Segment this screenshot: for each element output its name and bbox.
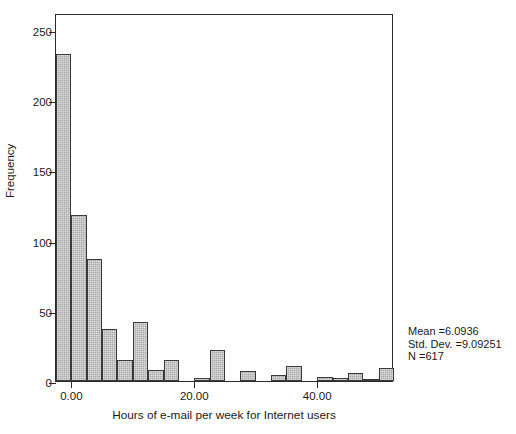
histogram-bar [71, 215, 86, 381]
y-axis-label: Frequency [4, 144, 16, 198]
y-tick-label: 250 [33, 26, 52, 38]
x-tick-mark [194, 381, 195, 388]
stat-std-dev: Std. Dev. =9.09251 [408, 338, 502, 351]
bars-layer [56, 15, 392, 381]
histogram-bar [333, 378, 348, 381]
histogram-bar [317, 377, 332, 381]
histogram-bar [164, 360, 179, 381]
x-tick-label: 20.00 [180, 390, 209, 402]
y-tick-label: 50 [39, 307, 52, 319]
histogram-bar [271, 375, 286, 381]
histogram-bar [286, 366, 301, 381]
histogram-bar [102, 329, 117, 381]
histogram-bar [240, 371, 255, 381]
histogram-bar [363, 379, 378, 381]
statistics-annotation: Mean =6.0936 Std. Dev. =9.09251 N =617 [408, 325, 502, 363]
histogram-figure: 050100150200250 0.0020.0040.00 Frequency… [0, 0, 516, 434]
histogram-bar [348, 373, 363, 381]
x-axis-label: Hours of e-mail per week for Internet us… [55, 408, 393, 422]
x-tick-mark [317, 381, 318, 388]
x-tick-label: 40.00 [303, 390, 332, 402]
histogram-bar [87, 259, 102, 381]
plot-area: 050100150200250 0.0020.0040.00 [55, 14, 393, 382]
y-tick-label: 200 [33, 96, 52, 108]
histogram-bar [133, 322, 148, 381]
stat-mean: Mean =6.0936 [408, 325, 502, 338]
x-tick-mark [71, 381, 72, 388]
y-tick-label: 150 [33, 166, 52, 178]
x-tick-label: 0.00 [60, 390, 82, 402]
histogram-bar [379, 368, 394, 381]
histogram-bar [56, 54, 71, 381]
y-tick-label: 100 [33, 237, 52, 249]
histogram-bar [117, 360, 132, 381]
histogram-bar [194, 378, 209, 381]
histogram-bar [210, 350, 225, 381]
y-tick-label: 0 [46, 377, 52, 389]
histogram-bar [148, 370, 163, 381]
stat-n: N =617 [408, 350, 502, 363]
